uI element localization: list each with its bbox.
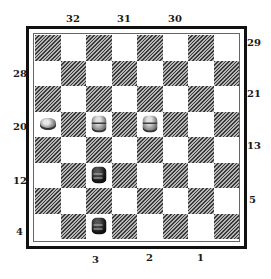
dark-square-r4c4[interactable] (137, 137, 163, 163)
light-square-r1c0[interactable] (35, 61, 61, 87)
dark-square-r5c7[interactable] (214, 163, 240, 189)
light-square-r7c0[interactable] (35, 214, 61, 240)
light-square-r7c6[interactable] (188, 214, 214, 240)
dark-square-r0c2[interactable] (86, 35, 112, 61)
light-square-r0c3[interactable] (112, 35, 138, 61)
light-square-r1c2[interactable] (86, 61, 112, 87)
dark-square-r5c1[interactable] (61, 163, 87, 189)
light-square-r6c3[interactable] (112, 188, 138, 214)
light-square-r1c6[interactable] (188, 61, 214, 87)
light-square-r0c5[interactable] (163, 35, 189, 61)
dark-square-r7c3[interactable] (112, 214, 138, 240)
square-label-5: 5 (249, 195, 256, 205)
dark-square-r7c1[interactable] (61, 214, 87, 240)
white-man-piece-icon[interactable] (40, 118, 56, 130)
dark-square-r2c2[interactable] (86, 86, 112, 112)
light-square-r5c0[interactable] (35, 163, 61, 189)
dark-square-r7c5[interactable] (163, 214, 189, 240)
light-square-r6c5[interactable] (163, 188, 189, 214)
dark-square-r1c3[interactable] (112, 61, 138, 87)
dark-square-r7c7[interactable] (214, 214, 240, 240)
square-label-12: 12 (13, 176, 27, 186)
light-square-r2c5[interactable] (163, 86, 189, 112)
light-square-r0c7[interactable] (214, 35, 240, 61)
light-square-r0c1[interactable] (61, 35, 87, 61)
dark-square-r1c1[interactable] (61, 61, 87, 87)
dark-square-r4c0[interactable] (35, 137, 61, 163)
dark-square-r5c5[interactable] (163, 163, 189, 189)
light-square-r4c3[interactable] (112, 137, 138, 163)
dark-square-r4c6[interactable] (188, 137, 214, 163)
light-square-r2c3[interactable] (112, 86, 138, 112)
dark-square-r2c0[interactable] (35, 86, 61, 112)
square-label-4: 4 (16, 227, 23, 237)
square-label-30: 30 (168, 14, 182, 24)
checkerboard-inner-border (33, 33, 240, 242)
white-king-piece-icon[interactable] (91, 116, 106, 133)
light-square-r6c1[interactable] (61, 188, 87, 214)
dark-square-r4c2[interactable] (86, 137, 112, 163)
light-square-r3c2[interactable] (86, 112, 112, 138)
square-label-13: 13 (247, 141, 261, 151)
black-king-piece-icon[interactable] (91, 167, 106, 184)
light-square-r4c7[interactable] (214, 137, 240, 163)
square-label-31: 31 (117, 14, 131, 24)
dark-square-r0c4[interactable] (137, 35, 163, 61)
light-square-r3c6[interactable] (188, 112, 214, 138)
dark-square-r6c2[interactable] (86, 188, 112, 214)
light-square-r3c4[interactable] (137, 112, 163, 138)
checkerboard-frame (26, 26, 247, 249)
dark-square-r0c0[interactable] (35, 35, 61, 61)
dark-square-r1c5[interactable] (163, 61, 189, 87)
light-square-r4c5[interactable] (163, 137, 189, 163)
square-label-29: 29 (247, 38, 261, 48)
light-square-r4c1[interactable] (61, 137, 87, 163)
light-square-r1c4[interactable] (137, 61, 163, 87)
black-king-piece-icon[interactable] (91, 218, 106, 235)
dark-square-r2c4[interactable] (137, 86, 163, 112)
dark-square-r6c6[interactable] (188, 188, 214, 214)
light-square-r5c6[interactable] (188, 163, 214, 189)
dark-square-r3c1[interactable] (61, 112, 87, 138)
white-king-piece-icon[interactable] (142, 116, 157, 133)
square-label-32: 32 (66, 14, 80, 24)
square-label-28: 28 (13, 69, 27, 79)
light-square-r3c0[interactable] (35, 112, 61, 138)
dark-square-r6c4[interactable] (137, 188, 163, 214)
square-label-3: 3 (92, 255, 99, 265)
dark-square-r6c0[interactable] (35, 188, 61, 214)
square-label-21: 21 (247, 89, 261, 99)
light-square-r7c2[interactable] (86, 214, 112, 240)
square-label-20: 20 (13, 122, 27, 132)
checkerboard-grid (35, 35, 239, 239)
light-square-r2c1[interactable] (61, 86, 87, 112)
light-square-r5c2[interactable] (86, 163, 112, 189)
light-square-r5c4[interactable] (137, 163, 163, 189)
dark-square-r3c3[interactable] (112, 112, 138, 138)
square-label-2: 2 (146, 253, 153, 263)
light-square-r7c4[interactable] (137, 214, 163, 240)
dark-square-r2c6[interactable] (188, 86, 214, 112)
dark-square-r0c6[interactable] (188, 35, 214, 61)
dark-square-r1c7[interactable] (214, 61, 240, 87)
dark-square-r3c7[interactable] (214, 112, 240, 138)
square-label-1: 1 (197, 253, 204, 263)
light-square-r2c7[interactable] (214, 86, 240, 112)
dark-square-r5c3[interactable] (112, 163, 138, 189)
light-square-r6c7[interactable] (214, 188, 240, 214)
dark-square-r3c5[interactable] (163, 112, 189, 138)
